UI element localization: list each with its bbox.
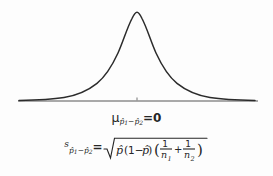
fraction-two-numerator: 1 [185, 139, 191, 149]
normal-curve-chart [0, 0, 273, 110]
radical-svg: p̂ ( 1− p̂ ) ( 1 n 1 + 1 [103, 135, 209, 161]
radicand-group-close-paren: ) [197, 141, 203, 159]
fraction-two-denominator-index: 2 [189, 155, 194, 162]
mean-value: 0 [153, 111, 161, 125]
fraction-one-denominator-index: 1 [167, 155, 171, 162]
fraction-two-denominator: n [184, 149, 190, 160]
radicand-close-paren: ) [148, 144, 152, 157]
radicand-p-hat: p̂ [116, 144, 123, 157]
fraction-one-numerator: 1 [162, 139, 168, 149]
sd-equals-sign: = [93, 140, 103, 154]
fraction-one-denominator: n [161, 149, 167, 160]
radicand-plus-sign: + [174, 144, 182, 155]
radical-expression: p̂ ( 1− p̂ ) ( 1 n 1 + 1 [103, 135, 209, 161]
formula-block: μp̂1−p̂2=0 sp̂1−p̂2= p̂ ( 1− p̂ ) ( [0, 106, 273, 176]
normal-distribution-curve [19, 12, 255, 100]
radicand-group-open-paren: ( [154, 141, 160, 159]
normal-curve-svg [0, 0, 273, 110]
mean-equals-sign: = [143, 111, 153, 125]
standard-deviation-formula: sp̂1−p̂2= p̂ ( 1− p̂ ) ( 1 n [0, 134, 273, 160]
mean-formula: μp̂1−p̂2=0 [0, 110, 273, 126]
statistics-figure: μp̂1−p̂2=0 sp̂1−p̂2= p̂ ( 1− p̂ ) ( [0, 0, 273, 176]
